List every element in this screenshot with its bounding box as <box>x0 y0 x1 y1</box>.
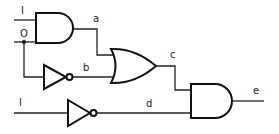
label-input-1: I <box>21 5 24 16</box>
label-c: c <box>170 49 176 60</box>
logic-circuit-diagram: I O I a b c d e <box>0 0 279 134</box>
wire-to-not1 <box>24 42 44 77</box>
label-d: d <box>146 98 152 109</box>
not-gate-1-bubble <box>67 74 73 80</box>
wire-a <box>73 29 114 55</box>
not-gate-1 <box>44 65 66 89</box>
not-gate-2 <box>68 100 90 126</box>
and-gate-1 <box>36 13 73 43</box>
label-e: e <box>253 85 259 96</box>
circuit-svg: I O I a b c d e <box>0 0 279 134</box>
and-gate-2 <box>191 84 232 118</box>
label-input-0: O <box>20 28 28 39</box>
label-a: a <box>93 13 99 24</box>
or-gate <box>111 49 156 83</box>
label-input-3: I <box>19 97 22 108</box>
wire-c <box>156 66 192 90</box>
not-gate-2-bubble <box>91 110 97 116</box>
label-b: b <box>83 62 89 73</box>
